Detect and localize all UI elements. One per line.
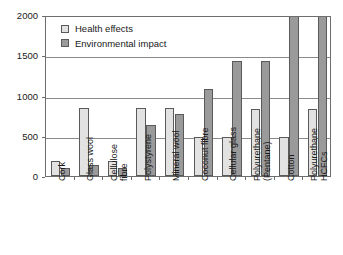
legend-swatch-env <box>61 39 69 47</box>
x-axis-tick-mark <box>217 177 218 180</box>
x-axis-category-label-line: HCFCs <box>320 128 330 181</box>
legend-label: Health effects <box>75 24 133 34</box>
x-axis-tick-mark <box>159 177 160 180</box>
x-axis-category-label: Mineral wool <box>172 130 182 181</box>
legend-label: Environmental impact <box>75 39 166 49</box>
x-axis-category-label-line: (Pentane) <box>263 128 273 181</box>
x-axis-tick-mark <box>274 177 275 180</box>
x-axis-category-label: Glass wool <box>86 137 96 181</box>
y-axis-tick-label: 1500 <box>2 51 38 61</box>
x-axis-tick-mark <box>302 177 303 180</box>
y-axis-tick-label: 500 <box>2 132 38 142</box>
x-axis-category-label-line: Polystyrene <box>144 134 154 181</box>
x-axis-category-label-line: Mineral wool <box>172 130 182 181</box>
legend-item: Health effects <box>61 24 166 34</box>
gridline <box>46 98 330 99</box>
x-axis-category-label: PolyurethaneHCFCs <box>310 128 329 181</box>
gridline <box>46 57 330 58</box>
y-axis-tick-mark <box>42 177 45 178</box>
x-axis-category-label-line: Cotton <box>287 154 297 181</box>
x-axis-category-label: Coconut fibre <box>201 127 211 181</box>
bar <box>289 16 299 176</box>
x-axis-category-label: Polystyrene <box>144 134 154 181</box>
x-axis-category-label: Cellulosefibre <box>110 144 129 181</box>
y-axis-tick-label: 0 <box>2 172 38 182</box>
y-axis-tick-label: 2000 <box>2 11 38 21</box>
x-axis-category-label-line: Cellular glass <box>229 127 239 181</box>
x-axis-category-label-line: fibre <box>120 144 130 181</box>
x-axis-tick-mark <box>245 177 246 180</box>
x-axis-category-label: Polyurethane(Pentane) <box>253 128 272 181</box>
x-axis-tick-mark <box>102 177 103 180</box>
x-axis-category-label: Cotton <box>287 154 297 181</box>
x-axis-category-label-line: Coconut fibre <box>201 127 211 181</box>
y-axis-tick-label: 1000 <box>2 92 38 102</box>
x-axis-category-label: Cork <box>58 162 68 181</box>
x-axis-category-label: Cellular glass <box>229 127 239 181</box>
legend-swatch-health <box>61 25 69 33</box>
bar-chart: 0500100015002000 CorkGlass woolCellulose… <box>0 0 343 255</box>
x-axis-tick-mark <box>74 177 75 180</box>
x-axis-category-label-line: Cork <box>58 162 68 181</box>
x-axis-category-label-line: Glass wool <box>86 137 96 181</box>
x-axis-tick-mark <box>188 177 189 180</box>
chart-legend: Health effectsEnvironmental impact <box>61 24 166 48</box>
legend-item: Environmental impact <box>61 39 166 49</box>
x-axis-tick-mark <box>131 177 132 180</box>
